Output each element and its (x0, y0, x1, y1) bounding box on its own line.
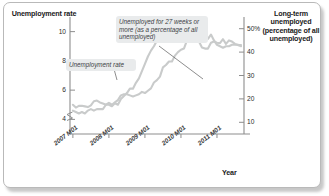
y-axis-right-tick-label: 30 (247, 72, 271, 79)
callout-leader-line-unemployment-rate (114, 69, 117, 80)
y-axis-right-tick-label: 50% (247, 25, 271, 32)
y-axis-left-tick-label: 10 (36, 28, 66, 35)
callout-long-term-unemployed: Unemployed for 27 weeks or more (as a pe… (116, 16, 208, 43)
y-axis-right-ticks (239, 29, 244, 123)
y-axis-left-tick-label: 8 (36, 57, 66, 64)
callout-unemployment-rate: Unemployment rate (66, 59, 136, 71)
y-axis-left-tick-label: 4 (36, 115, 66, 122)
y-axis-left-tick-label: 6 (36, 86, 66, 93)
chart-figure-frame: Unemployment rate Long-term unemployed (… (3, 2, 321, 188)
series-line-long-term-unemployed (73, 38, 241, 108)
y-axis-right-tick-label: 20 (247, 95, 271, 102)
y-axis-right-tick-label: 40 (247, 48, 271, 55)
y-axis-right-tick-label: 10 (247, 118, 271, 125)
